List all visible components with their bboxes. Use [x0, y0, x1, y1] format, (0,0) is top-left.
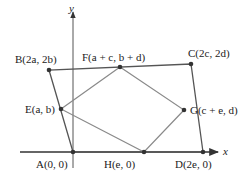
- point-e: [59, 107, 64, 112]
- label-c: C(2c, 2d): [188, 47, 230, 60]
- x-axis-label: x: [222, 145, 228, 157]
- point-f: [118, 65, 123, 70]
- point-g: [182, 108, 187, 113]
- inner-quadrilateral-efgh: [61, 67, 184, 152]
- label-g: G(c + e, d): [190, 104, 238, 117]
- point-h: [142, 150, 147, 155]
- point-a: [71, 150, 76, 155]
- quadrilateral-diagram: x y B(2a, 2b) F(a + c, b + d) C(2c, 2d) …: [0, 0, 251, 177]
- outer-quadrilateral-abcd: [49, 64, 203, 152]
- label-a: A(0, 0): [36, 158, 68, 171]
- point-c: [189, 62, 194, 67]
- y-axis-label: y: [68, 2, 74, 14]
- point-d: [201, 150, 206, 155]
- label-f: F(a + c, b + d): [82, 51, 145, 64]
- label-h: H(e, 0): [104, 158, 135, 171]
- label-e: E(a, b): [25, 103, 55, 116]
- label-b: B(2a, 2b): [15, 53, 57, 66]
- point-b: [47, 68, 52, 73]
- label-d: D(2e, 0): [175, 158, 212, 171]
